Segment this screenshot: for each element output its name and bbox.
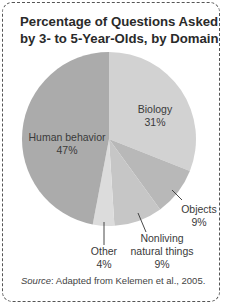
other-label: Other4% [84, 245, 124, 271]
nonliving-label: Nonlivingnatural things9% [124, 232, 200, 271]
human-behavior-label: Human behavior47% [22, 131, 112, 157]
source-note: Source: Adapted from Kelemen et al., 200… [21, 275, 205, 286]
objects-label: Objects9% [176, 203, 222, 229]
biology-label: Biology31% [130, 103, 180, 129]
